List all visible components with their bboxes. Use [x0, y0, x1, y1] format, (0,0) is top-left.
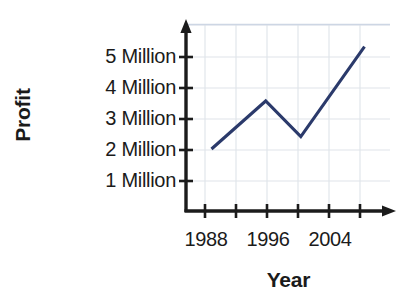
x-tick-label-1996: 1996	[247, 228, 290, 251]
x-tick-label-1988: 1988	[185, 228, 228, 251]
y-axis-title: Profit	[11, 70, 35, 160]
line-chart-figure: 5 Million 4 Million 3 Million 2 Million …	[0, 0, 408, 302]
x-axis-tick-labels: 1988 1996 2004	[0, 0, 408, 302]
x-axis-title: Year	[186, 268, 391, 292]
x-tick-label-2004: 2004	[309, 228, 352, 251]
